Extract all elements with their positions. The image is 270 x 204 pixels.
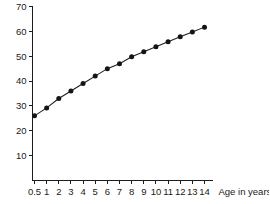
x-axis-tick-label: 5 (93, 186, 98, 197)
x-axis-title: Age in years (219, 186, 270, 197)
data-point-marker (153, 44, 158, 49)
line-chart: 102030405060700.51234567891011121314Age … (0, 0, 269, 204)
y-axis-tick-label: 70 (16, 1, 27, 12)
x-axis-tick-label: 12 (175, 186, 186, 197)
data-point-marker (178, 34, 183, 39)
chart-container: 102030405060700.51234567891011121314Age … (0, 0, 269, 204)
x-axis-tick-label: 13 (187, 186, 198, 197)
y-axis-tick-label: 50 (16, 51, 27, 62)
data-point-marker (44, 105, 49, 110)
data-series-line (35, 27, 205, 116)
data-point-marker (117, 61, 122, 66)
data-point-marker (166, 39, 171, 44)
x-axis-tick-label: 14 (199, 186, 210, 197)
x-axis-tick-label: 2 (56, 186, 61, 197)
x-axis-tick-label: 10 (151, 186, 162, 197)
y-axis-tick-label: 20 (16, 125, 27, 136)
y-axis-tick-label: 60 (16, 26, 27, 37)
data-point-marker (129, 54, 134, 59)
y-axis-tick-label: 30 (16, 100, 27, 111)
x-axis-tick-label: 4 (80, 186, 85, 197)
x-axis-tick-label: 11 (163, 186, 173, 197)
data-point-marker (202, 25, 207, 30)
y-axis-tick-label: 40 (16, 75, 27, 86)
x-axis-tick-label: 8 (129, 186, 134, 197)
x-axis-tick-label: 3 (68, 186, 73, 197)
x-axis-tick-label: 9 (141, 186, 146, 197)
data-point-marker (190, 30, 195, 35)
data-point-marker (141, 49, 146, 54)
data-point-marker (32, 113, 37, 118)
data-point-marker (81, 81, 86, 86)
y-axis-tick-label: 10 (16, 150, 27, 161)
data-point-marker (68, 89, 73, 94)
x-axis-tick-label: 1 (44, 186, 49, 197)
x-axis-tick-label: 0.5 (28, 186, 41, 197)
data-point-marker (93, 74, 98, 79)
x-axis-tick-label: 7 (117, 186, 122, 197)
x-axis-tick-label: 6 (105, 186, 110, 197)
data-point-marker (105, 66, 110, 71)
data-point-marker (56, 96, 61, 101)
